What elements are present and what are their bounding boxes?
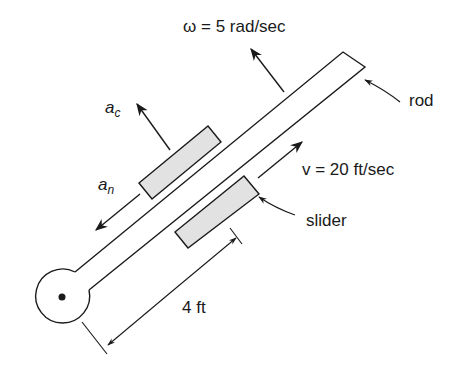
ac-arrow bbox=[137, 104, 170, 150]
pivot-point bbox=[59, 294, 66, 301]
an-subscript: n bbox=[107, 183, 114, 197]
rod bbox=[36, 52, 365, 323]
ac-subscript: c bbox=[114, 106, 120, 120]
rod-leader bbox=[365, 80, 400, 102]
distance-label: 4 ft bbox=[182, 299, 206, 316]
ac-label: ac bbox=[105, 99, 120, 116]
slider-leader bbox=[259, 197, 295, 215]
omega-label: ω = 5 rad/sec bbox=[183, 18, 286, 35]
velocity-label: v = 20 ft/sec bbox=[302, 161, 394, 178]
diagram-graphics bbox=[0, 0, 466, 374]
omega-arrow bbox=[251, 49, 284, 92]
an-label: an bbox=[98, 176, 114, 193]
rod-label: rod bbox=[409, 92, 434, 109]
slider-label: slider bbox=[306, 212, 347, 229]
rotating-rod-slider-diagram: ω = 5 rad/sec rod v = 20 ft/sec slider 4… bbox=[0, 0, 466, 374]
